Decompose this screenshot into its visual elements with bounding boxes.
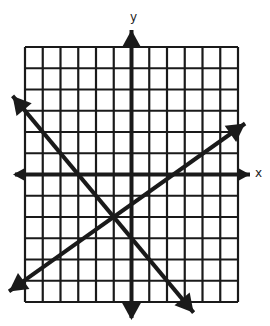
x-axis-label: x xyxy=(255,167,262,179)
coordinate-plane xyxy=(0,0,270,326)
axes xyxy=(13,30,250,320)
y-axis-down-arrow-icon xyxy=(122,302,142,320)
line-increasing xyxy=(9,124,245,292)
y-axis-label: y xyxy=(130,11,137,23)
x-axis-right-arrow-icon xyxy=(238,168,250,181)
line-increasing-start-arrow-icon xyxy=(9,273,29,291)
y-axis-up-arrow-icon xyxy=(122,30,142,48)
x-axis-left-arrow-icon xyxy=(13,168,25,181)
